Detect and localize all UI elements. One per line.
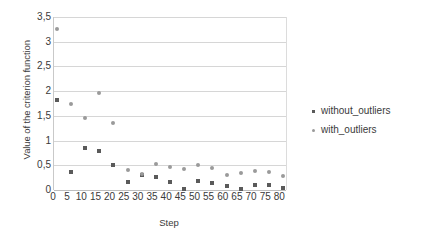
data-point	[239, 171, 243, 175]
gridline	[54, 42, 286, 43]
x-tick-label: 55	[203, 192, 214, 202]
legend-marker-icon	[312, 129, 315, 132]
y-tick-label: 2	[26, 86, 51, 96]
data-point	[69, 170, 73, 174]
x-tick-label: 50	[189, 192, 200, 202]
data-point	[210, 181, 214, 185]
data-point	[281, 174, 285, 178]
data-point	[225, 173, 229, 177]
data-point	[126, 168, 130, 172]
x-tick-label: 35	[146, 192, 157, 202]
y-tick-label: 2,5	[26, 61, 51, 71]
x-tick-label: 5	[64, 192, 70, 202]
x-tick-label: 10	[76, 192, 87, 202]
data-point	[154, 162, 158, 166]
x-tick-label: 20	[104, 192, 115, 202]
data-point	[111, 163, 115, 167]
data-point	[154, 175, 158, 179]
x-tick-label: 80	[274, 192, 285, 202]
chart-legend: without_outlierswith_outliers	[312, 106, 424, 144]
data-point	[267, 170, 271, 174]
data-point	[126, 180, 130, 184]
data-point	[97, 149, 101, 153]
legend-item[interactable]: with_outliers	[312, 125, 424, 135]
data-point	[196, 163, 200, 167]
x-tick-label: 15	[90, 192, 101, 202]
scatter-chart: Value of the criterion function 00,511,5…	[0, 0, 427, 241]
legend-item[interactable]: without_outliers	[312, 106, 424, 116]
y-tick-label: 1,5	[26, 111, 51, 121]
y-tick-label: 3,5	[26, 12, 51, 22]
data-point	[196, 179, 200, 183]
gridline	[54, 91, 286, 92]
x-tick-label: 70	[245, 192, 256, 202]
y-tick-label: 1	[26, 136, 51, 146]
data-point	[210, 166, 214, 170]
y-tick-label: 0	[26, 185, 51, 195]
x-tick-label: 40	[161, 192, 172, 202]
data-point	[253, 183, 257, 187]
data-point	[182, 167, 186, 171]
legend-marker-icon	[312, 110, 315, 113]
y-axis-tick-labels: 00,511,522,533,5	[26, 17, 51, 190]
gridline	[54, 141, 286, 142]
data-point	[55, 98, 59, 102]
x-tick-label: 25	[118, 192, 129, 202]
data-point	[97, 91, 101, 95]
data-point	[168, 180, 172, 184]
data-point	[83, 116, 87, 120]
data-point	[225, 184, 229, 188]
x-tick-label: 60	[217, 192, 228, 202]
data-point	[267, 183, 271, 187]
y-tick-label: 0,5	[26, 160, 51, 170]
data-point	[111, 121, 115, 125]
x-tick-label: 75	[260, 192, 271, 202]
data-point	[281, 186, 285, 190]
x-axis-title: Step	[53, 218, 285, 228]
x-tick-label: 45	[175, 192, 186, 202]
data-point	[69, 102, 73, 106]
x-tick-label: 0	[50, 192, 56, 202]
data-point	[168, 165, 172, 169]
x-tick-label: 30	[132, 192, 143, 202]
gridline	[54, 66, 286, 67]
data-point	[55, 27, 59, 31]
legend-label: without_outliers	[321, 106, 390, 116]
gridline	[54, 116, 286, 117]
data-point	[140, 172, 144, 176]
y-tick-label: 3	[26, 37, 51, 47]
data-point	[253, 169, 257, 173]
x-axis-tick-labels: 05101520253035404550556065707580	[53, 192, 285, 206]
gridline	[54, 17, 286, 18]
x-tick-label: 65	[231, 192, 242, 202]
data-point	[83, 146, 87, 150]
plot-area	[53, 17, 287, 190]
legend-label: with_outliers	[321, 125, 377, 135]
